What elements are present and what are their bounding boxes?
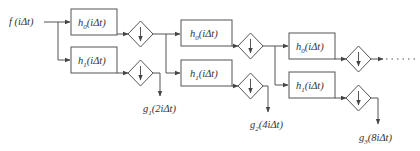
stage-2: h0(iΔt) h1(iΔt) g2(4iΔt) (181, 20, 288, 133)
detail-output-label: g2(4iΔt) (250, 119, 283, 133)
input-signal-label: f (iΔt) (9, 16, 34, 28)
filter-bank-diagram: f (iΔt) h0(iΔt) h1(iΔt) g1(2iΔt) h0(iΔt) (0, 0, 420, 151)
detail-output-label: g1(2iΔt) (143, 103, 176, 117)
input-wires (44, 22, 70, 60)
detail-output-label: g3(8iΔt) (359, 132, 392, 146)
stage-3: h0(iΔt) h1(iΔt) g3(8iΔt) (289, 33, 416, 146)
stage-1: h0(iΔt) h1(iΔt) g1(2iΔt) (71, 9, 180, 117)
